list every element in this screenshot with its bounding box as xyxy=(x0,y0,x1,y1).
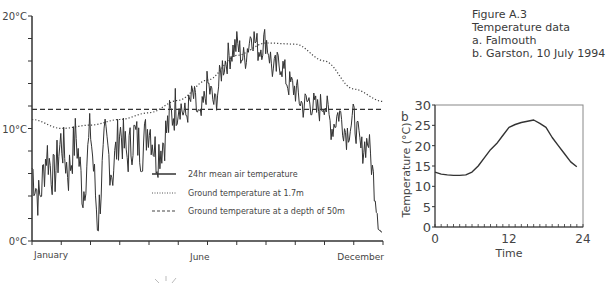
series-ground-1-7m xyxy=(32,43,383,129)
panel-b-label: b xyxy=(401,110,409,124)
y-tick-label-b: 5 xyxy=(423,200,431,215)
x-tick-label-b: 12 xyxy=(501,232,516,246)
legend-label: Ground temperature at a depth of 50m xyxy=(188,207,345,216)
y-tick-label-b: 30 xyxy=(414,98,431,113)
y-tick-label-b: 15 xyxy=(414,159,431,174)
series-air-temperature xyxy=(32,29,382,232)
x-tick-label-a: June xyxy=(189,252,210,262)
chart-a-falmouth: 0°C10°C20°CJanuaryJuneDecember24hr mean … xyxy=(2,11,384,262)
y-tick-label-b: 10 xyxy=(414,179,431,194)
plot-frame-b xyxy=(435,105,583,227)
y-tick-label-a: 10°C xyxy=(2,124,27,135)
y-tick-label-b: 20 xyxy=(414,139,431,154)
series-temperature-b xyxy=(435,120,577,175)
x-tick-label-b: 24 xyxy=(575,232,590,246)
x-tick-label-a: December xyxy=(337,252,384,262)
y-axis-title-b: Temperature (°C) xyxy=(400,123,413,219)
legend-a: 24hr mean air temperatureGround temperat… xyxy=(152,170,345,216)
x-axis-title-b: Time xyxy=(495,247,523,260)
y-tick-label-b: 25 xyxy=(414,118,431,133)
y-tick-label-b: 0 xyxy=(423,220,431,235)
figure-canvas: 0°C10°C20°CJanuaryJuneDecember24hr mean … xyxy=(0,0,611,290)
decorative-marks xyxy=(155,276,176,283)
x-tick-label-a: January xyxy=(33,250,69,260)
y-tick-label-a: 20°C xyxy=(2,11,27,22)
x-tick-label-b: 0 xyxy=(431,232,439,246)
y-tick-label-a: 0°C xyxy=(9,236,27,247)
chart-b-garston: b05101520253001224TimeTemperature (°C) xyxy=(400,98,591,260)
legend-label: 24hr mean air temperature xyxy=(188,170,298,179)
legend-label: Ground temperature at 1.7m xyxy=(188,189,304,198)
